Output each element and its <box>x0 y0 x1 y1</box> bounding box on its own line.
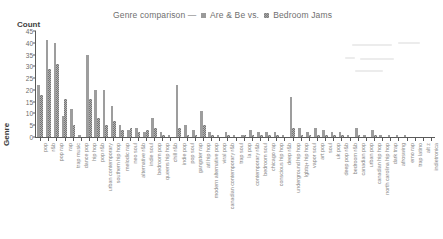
bar <box>97 118 100 137</box>
bar-group <box>158 31 166 137</box>
bar <box>233 135 236 137</box>
bar-group <box>370 31 378 137</box>
bar <box>347 135 350 137</box>
bar-group <box>85 31 93 137</box>
x-axis-tick-label: rap <box>67 143 73 151</box>
x-axis-tick-mark <box>398 138 399 141</box>
x-axis-tick-mark <box>146 138 147 141</box>
bar-group <box>378 31 386 137</box>
bar <box>168 135 171 137</box>
y-axis-tick-label: 35 <box>26 51 33 58</box>
x-axis-tick-label: urban contemporary <box>107 143 113 191</box>
bar <box>317 135 320 137</box>
bar <box>282 135 285 137</box>
x-axis-tick-mark <box>227 138 228 141</box>
x-axis-tick-mark <box>73 138 74 141</box>
x-axis-tick-label: vapor soul <box>311 143 317 168</box>
x-axis-tick-mark <box>341 138 342 141</box>
bar <box>217 135 220 137</box>
x-axis-tick-label: melodic rap <box>124 143 130 171</box>
bar-group <box>117 31 125 137</box>
x-axis-tick-mark <box>244 138 245 141</box>
x-axis-tick-mark <box>122 138 123 141</box>
bar-group <box>256 31 264 137</box>
bar <box>379 135 382 137</box>
chart-title: Genre comparison — Are & Be vs. Bedroom … <box>113 10 332 20</box>
bar-group <box>354 31 362 137</box>
bar <box>48 69 51 137</box>
x-axis-tick-mark <box>56 138 57 141</box>
x-axis-tick-mark <box>40 138 41 141</box>
x-axis-tick-label: alternative r&b <box>140 143 146 178</box>
bar <box>56 64 59 137</box>
bar <box>105 125 108 137</box>
bar-group <box>109 31 117 137</box>
x-axis-tick-mark <box>293 138 294 141</box>
x-axis-tick-label: canadian hip hop <box>376 143 382 184</box>
x-axis-tick-label: bedroom r&b <box>352 143 358 174</box>
bar-group <box>52 31 60 137</box>
legend-label-series-b: Bedroom Jams <box>273 10 332 20</box>
x-axis-tick-label: pop rap <box>58 143 64 161</box>
x-axis-tick-label: deep pop r&b <box>343 143 349 175</box>
bar-group <box>305 31 313 137</box>
bar <box>64 99 67 137</box>
bar-group <box>134 31 142 137</box>
bar-group <box>191 31 199 137</box>
x-axis-tick-label: conscious hip hop <box>278 143 284 186</box>
x-axis-tick-mark <box>236 138 237 141</box>
background-artifact <box>360 58 394 60</box>
bar <box>203 125 206 137</box>
x-axis-tick-label: contemporary r&b <box>254 143 260 186</box>
y-axis-tick-label: 15 <box>26 98 33 105</box>
x-axis-tick-label: chicago rap <box>270 143 276 171</box>
chart-title-prefix: Genre comparison — <box>113 10 196 20</box>
bar <box>154 128 157 137</box>
bar <box>121 130 124 137</box>
background-artifact <box>355 70 383 72</box>
bar <box>363 135 366 137</box>
x-axis-tick-label: queens hip hop <box>164 143 170 180</box>
x-axis-tick-mark <box>358 138 359 141</box>
bar-group <box>142 31 150 137</box>
x-axis-tick-mark <box>333 138 334 141</box>
x-axis-tick-label: afroswing <box>400 143 406 166</box>
x-axis-tick-mark <box>179 138 180 141</box>
x-axis-tick-label: canadian contemporary r&b <box>229 143 235 209</box>
bar-group <box>44 31 52 137</box>
bar <box>113 121 116 137</box>
x-axis-tick-mark <box>301 138 302 141</box>
x-axis-tick-mark <box>130 138 131 141</box>
background-artifact <box>352 44 392 46</box>
x-axis-tick-mark <box>423 138 424 141</box>
x-axis-tick-label: art pop <box>319 143 325 160</box>
background-artifact <box>345 57 355 59</box>
bar <box>73 125 76 137</box>
bar <box>374 135 377 137</box>
x-axis-tick-mark <box>113 138 114 141</box>
bar <box>130 128 133 137</box>
bar-group <box>280 31 288 137</box>
x-axis-tick-mark <box>268 138 269 141</box>
x-axis-tick-label: canadian pop <box>360 143 366 175</box>
x-axis-tick-label: viral pop <box>221 143 227 163</box>
bar-group <box>77 31 85 137</box>
bar-group <box>248 31 256 137</box>
bar-group <box>69 31 77 137</box>
x-axis-tick-mark <box>431 138 432 141</box>
x-axis-tick-label: pop r&b <box>99 143 105 162</box>
bar <box>211 135 214 137</box>
bar <box>292 128 295 137</box>
x-axis-tick-mark <box>309 138 310 141</box>
bar-group <box>174 31 182 137</box>
bar <box>138 132 141 137</box>
x-axis-tick-mark <box>219 138 220 141</box>
x-axis-tick-label: north carolina hip hop <box>384 143 390 195</box>
x-axis-tick-label: uk pop <box>335 143 341 159</box>
x-axis-tick-label: indietronica <box>433 143 439 171</box>
x-axis-tick-label: underground hip hop <box>295 143 301 193</box>
y-axis-tick-label: 10 <box>26 110 33 117</box>
bar-group <box>394 31 402 137</box>
x-axis-tick-label: hip hop <box>91 143 97 161</box>
bar-group <box>207 31 215 137</box>
